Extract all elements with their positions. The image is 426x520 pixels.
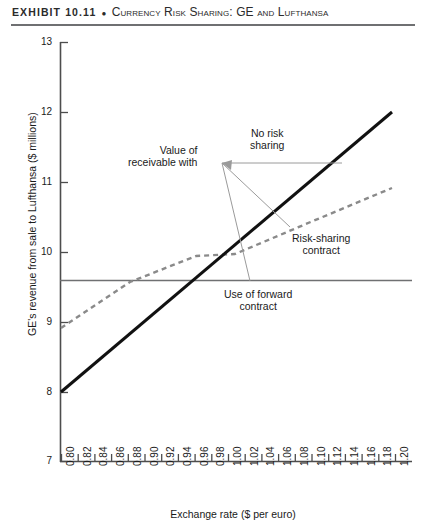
x-tick-label: 0.80 [65,447,76,466]
annotation-value-of-receivable: Value of receivable with [128,144,197,168]
x-tick-label: 0.98 [215,447,226,466]
x-tick-label: 1.02 [249,447,260,466]
x-tick-label: 0.90 [149,447,160,466]
annotation-line-2: contract [224,300,292,312]
x-tick-label: 1.06 [282,447,293,466]
annotation-line-2: contract [292,244,350,256]
x-tick-label: 1.18 [382,447,393,466]
annotation-use-of-forward-contract: Use of forward contract [224,288,292,312]
x-tick-label: 1.20 [399,447,410,466]
annotation-no-risk-sharing: No risk sharing [250,127,284,151]
x-tick-label: 0.92 [165,447,176,466]
annotation-line-2: sharing [250,139,284,151]
x-tick-label: 0.84 [98,447,109,466]
x-tick-label: 1.16 [366,447,377,466]
x-tick-label: 1.00 [232,447,243,466]
leader-to-risk-sharing-contract [222,163,290,227]
x-tick-label: 1.04 [265,447,276,466]
annotation-line-1: Use of forward [224,288,292,300]
annotation-line-1: Value of [128,144,197,156]
x-tick-label: 1.08 [299,447,310,466]
annotation-line-1: Risk-sharing [292,232,350,244]
annotation-line-2: receivable with [128,156,197,168]
x-tick-label: 0.96 [199,447,210,466]
x-tick-label: 0.94 [182,447,193,466]
y-tick-label: 7 [30,455,52,466]
x-tick-label: 0.86 [115,447,126,466]
x-tick-label: 0.88 [132,447,143,466]
x-tick-label: 1.14 [349,447,360,466]
leader-to-forward-contract [222,163,250,281]
annotation-risk-sharing-contract: Risk-sharing contract [292,232,350,256]
annotation-line-1: No risk [250,127,284,139]
y-tick-label: 8 [30,386,52,397]
x-tick-marks [62,454,396,462]
y-axis-title: GE's revenue from sale to Lufthansa ($ m… [26,116,38,336]
x-axis-title: Exchange rate ($ per euro) [113,508,353,520]
x-tick-label: 0.82 [82,447,93,466]
annotation-leader-lines [222,160,342,281]
x-tick-label: 1.10 [316,447,327,466]
x-tick-label: 1.12 [332,447,343,466]
y-tick-label: 13 [30,36,52,47]
